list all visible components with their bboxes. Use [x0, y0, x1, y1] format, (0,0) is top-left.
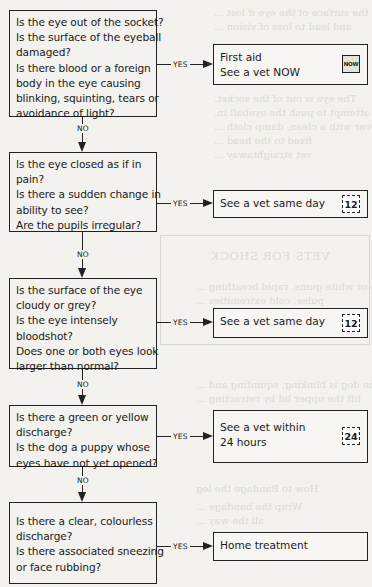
arrow-right-icon — [203, 318, 213, 326]
outcome-text: See a vet within — [220, 420, 361, 435]
12-hour-calendar-icon: 12 — [342, 314, 360, 332]
yes-label: YES — [171, 542, 190, 551]
question-text: Is there a sudden change in — [16, 187, 150, 202]
question-text: Are the pupils irregular? — [16, 218, 150, 233]
question-box-2: Is the eye closed as if in pain? Is ther… — [9, 152, 157, 232]
question-text: Is the eye closed as if in — [16, 157, 150, 172]
question-text: Is the dog a puppy whose — [16, 440, 150, 455]
yes-label: YES — [171, 199, 190, 208]
outcome-text: See a vet same day — [220, 196, 361, 211]
arrow-down-icon — [78, 142, 86, 152]
question-text: Is the surface of the eyeball — [16, 30, 150, 45]
question-box-3: Is the surface of the eye cloudy or grey… — [9, 278, 157, 369]
arrow-right-icon — [203, 60, 213, 68]
question-box-4: Is there a green or yellow discharge? Is… — [9, 405, 157, 467]
question-text: Is there a green or yellow — [16, 410, 150, 425]
question-text: Is there blood or a foreign — [16, 61, 150, 76]
question-text: Is there a clear, colourless — [16, 514, 150, 529]
question-text: bloodshot? — [16, 329, 150, 344]
question-text: Is the eye intensely — [16, 313, 150, 328]
question-text: body in the eye causing — [16, 76, 150, 91]
outcome-text: See a vet NOW — [220, 65, 361, 80]
question-text: pain? — [16, 172, 150, 187]
24-hour-calendar-icon: 24 — [342, 427, 360, 445]
arrow-right-icon — [203, 199, 213, 207]
question-text: blinking, squinting, tears or — [16, 91, 150, 106]
arrow-down-icon — [78, 268, 86, 278]
outcome-text: See a vet same day — [220, 314, 361, 329]
outcome-text: Home treatment — [220, 538, 361, 553]
no-label: NO — [75, 250, 91, 259]
question-text: Is the eye out of the socket? — [16, 15, 150, 30]
12-hour-calendar-icon: 12 — [342, 195, 360, 213]
question-text: or face rubbing? — [16, 560, 150, 575]
question-text: Does one or both eyes look — [16, 344, 150, 359]
question-text: discharge? — [16, 425, 150, 440]
outcome-text: First aid — [220, 50, 361, 65]
yes-label: YES — [171, 318, 190, 327]
outcome-text: 24 hours — [220, 435, 361, 450]
no-label: NO — [75, 476, 91, 485]
question-text: cloudy or grey? — [16, 298, 150, 313]
no-label: NO — [75, 124, 91, 133]
question-text: damaged? — [16, 45, 150, 60]
question-box-5: Is there a clear, colourless discharge? … — [9, 502, 157, 584]
outcome-box-5: Home treatment — [213, 532, 368, 561]
no-label: NO — [75, 380, 91, 389]
arrow-right-icon — [203, 432, 213, 440]
arrow-down-icon — [78, 492, 86, 502]
question-text: ability to see? — [16, 203, 150, 218]
outcome-box-3: See a vet same day 12 — [213, 308, 368, 338]
question-box-1: Is the eye out of the socket? Is the sur… — [9, 10, 157, 117]
arrow-right-icon — [203, 542, 213, 550]
outcome-box-4: See a vet within 24 hours 24 — [213, 410, 368, 463]
now-clock-icon: NOW — [342, 55, 360, 73]
outcome-box-2: See a vet same day 12 — [213, 190, 368, 218]
arrow-down-icon — [78, 395, 86, 405]
question-text: Is there associated sneezing — [16, 544, 150, 559]
yes-label: YES — [171, 432, 190, 441]
yes-label: YES — [171, 60, 190, 69]
question-text: discharge? — [16, 529, 150, 544]
question-text: Is the surface of the eye — [16, 283, 150, 298]
outcome-box-1: First aid See a vet NOW NOW — [213, 44, 368, 85]
